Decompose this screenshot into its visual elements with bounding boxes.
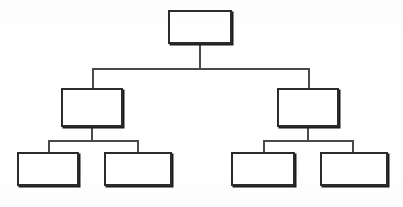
connector-root-stem — [199, 44, 201, 69]
node-mid-left[interactable] — [61, 88, 123, 127]
node-leaf-3-label — [233, 154, 293, 184]
connector-drop-mid-left — [92, 68, 94, 89]
connector-left-subtree-bus — [48, 140, 139, 142]
node-leaf-2[interactable] — [104, 152, 172, 186]
connector-drop-mid-right — [308, 68, 310, 89]
connector-mid-left-stem — [91, 127, 93, 141]
node-mid-left-label — [63, 90, 121, 125]
node-mid-right[interactable] — [277, 88, 339, 127]
connector-right-subtree-bus — [263, 140, 354, 142]
node-root[interactable] — [168, 10, 232, 44]
node-leaf-4-label — [322, 154, 386, 184]
node-leaf-1[interactable] — [17, 152, 79, 186]
node-leaf-1-label — [19, 154, 77, 184]
node-leaf-3[interactable] — [231, 152, 295, 186]
node-root-label — [170, 12, 230, 42]
diagram-canvas — [0, 0, 403, 207]
node-mid-right-label — [279, 90, 337, 125]
connector-level1-bus — [92, 68, 310, 70]
connector-mid-right-stem — [307, 127, 309, 141]
node-leaf-4[interactable] — [320, 152, 388, 186]
node-leaf-2-label — [106, 154, 170, 184]
